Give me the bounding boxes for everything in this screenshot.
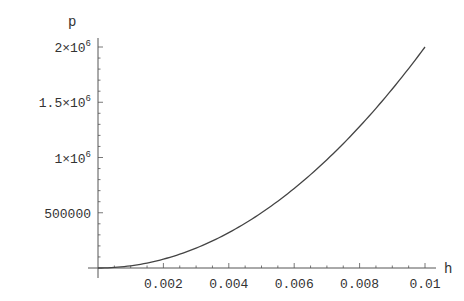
data-curve [98, 47, 425, 268]
y-axis-label: p [68, 14, 76, 30]
x-tick-label: 0.008 [340, 277, 379, 292]
y-tick-label: 2×106 [54, 39, 91, 56]
x-tick-label: 0.002 [144, 277, 183, 292]
y-tick-label: 1×106 [54, 150, 91, 167]
axes [88, 38, 436, 278]
x-tick-label: 0.006 [275, 277, 314, 292]
tick-labels: 0.0020.0040.0060.0080.015000001×1061.5×1… [39, 39, 441, 292]
y-tick-label: 1.5×106 [39, 94, 91, 111]
y-tick-label: 500000 [44, 207, 91, 222]
chart: 0.0020.0040.0060.0080.015000001×1061.5×1… [0, 0, 464, 301]
x-tick-label: 0.01 [409, 277, 440, 292]
ticks [98, 47, 425, 268]
x-axis-label: h [444, 261, 452, 277]
x-tick-label: 0.004 [209, 277, 248, 292]
